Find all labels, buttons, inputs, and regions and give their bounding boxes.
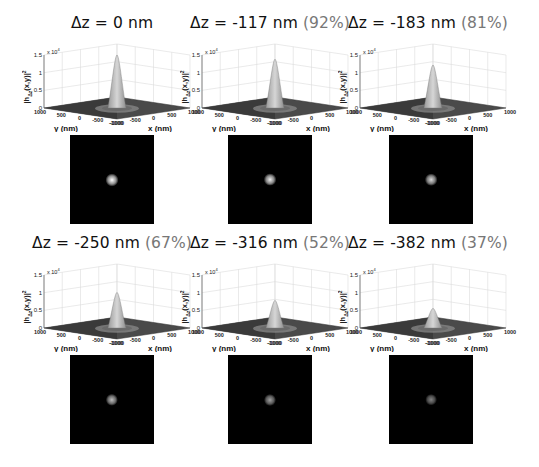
surface-plot-3d: 00.511.5x 104|hΔz(x,y)|210005000-500-100… — [180, 256, 360, 352]
surface-plot-3d: 00.511.5x 104|hΔz(x,y)|210005000-500-100… — [180, 36, 360, 132]
surface-plot-3d: 00.511.5x 104|hΔz(x,y)|210005000-500-100… — [338, 256, 518, 352]
z-tick-label: 1 — [39, 290, 43, 296]
x-tick-label: -500 — [130, 117, 141, 123]
defocus-label: Δz = -316 nm — [190, 234, 298, 252]
x-tick-label: 1000 — [504, 329, 516, 335]
z-multiplier: x 104 — [47, 267, 60, 275]
x-tick-label: -1000 — [426, 120, 440, 126]
panel-title: Δz = -117 nm (92%) — [180, 14, 360, 32]
y-axis-label: y (nm) — [212, 124, 236, 132]
x-tick-label: -1000 — [110, 340, 124, 346]
psf-peak — [424, 65, 442, 108]
z-tick-label: 0.5 — [192, 87, 201, 93]
panel-title: Δz = -316 nm (52%) — [180, 234, 360, 252]
z-axis-label: |hΔz(x,y)|2 — [180, 290, 191, 323]
x-tick-label: -500 — [288, 337, 299, 343]
y-tick-label: 0 — [394, 335, 397, 341]
x-tick-label: 500 — [325, 332, 334, 338]
x-tick-label: -500 — [130, 337, 141, 343]
x-axis-label: x (nm) — [306, 344, 330, 352]
z-tick-label: 1.5 — [192, 52, 201, 58]
x-tick-label: -1000 — [426, 340, 440, 346]
z-tick-label: 1.5 — [350, 272, 359, 278]
z-tick-label: 1.5 — [192, 272, 201, 278]
y-axis-label: y (nm) — [54, 124, 78, 132]
x-axis-label: x (nm) — [464, 344, 488, 352]
intensity-percent: (37%) — [456, 234, 508, 252]
z-multiplier: x 104 — [47, 47, 60, 55]
y-tick-label: 0 — [236, 115, 239, 121]
x-tick-label: 0 — [310, 115, 313, 121]
panel-title: Δz = -183 nm (81%) — [338, 14, 518, 32]
psf-intensity-image — [70, 135, 154, 224]
y-tick-label: 1000 — [34, 329, 46, 335]
panel-title: Δz = -250 nm (67%) — [22, 234, 202, 252]
x-tick-label: -500 — [288, 117, 299, 123]
z-tick-label: 1 — [197, 290, 201, 296]
x-tick-label: 0 — [152, 115, 155, 121]
z-multiplier: x 104 — [205, 47, 218, 55]
z-axis-label: |hΔz(x,y)|2 — [338, 70, 349, 103]
psf-spot — [264, 173, 277, 186]
psf-intensity-image — [228, 355, 312, 444]
surface-plot-3d: 00.511.5x 104|hΔz(x,y)|210005000-500-100… — [338, 36, 518, 132]
z-axis-label: |hΔz(x,y)|2 — [180, 70, 191, 103]
defocus-label: Δz = -382 nm — [348, 234, 456, 252]
x-axis-label: x (nm) — [148, 124, 172, 132]
y-tick-label: 500 — [373, 332, 382, 338]
y-tick-label: -500 — [92, 337, 103, 343]
z-tick-label: 1.5 — [34, 272, 43, 278]
y-tick-label: 0 — [78, 335, 81, 341]
z-tick-label: 0.5 — [34, 87, 43, 93]
z-multiplier: x 104 — [205, 267, 218, 275]
x-axis-label: x (nm) — [306, 124, 330, 132]
z-tick-label: 1 — [355, 290, 359, 296]
y-tick-label: 500 — [57, 112, 66, 118]
y-tick-label: 500 — [215, 332, 224, 338]
y-tick-label: 0 — [78, 115, 81, 121]
psf-peak — [266, 300, 284, 328]
y-tick-label: -500 — [408, 337, 419, 343]
defocus-label: Δz = 0 nm — [71, 14, 153, 32]
z-tick-label: 1.5 — [34, 52, 43, 58]
y-axis-label: y (nm) — [212, 344, 236, 352]
z-axis-label: |hΔz(x,y)|2 — [22, 290, 33, 323]
x-tick-label: 1000 — [504, 109, 516, 115]
y-axis-label: y (nm) — [370, 344, 394, 352]
x-tick-label: -1000 — [268, 120, 282, 126]
y-tick-label: 500 — [373, 112, 382, 118]
x-tick-label: -1000 — [268, 340, 282, 346]
x-tick-label: -1000 — [110, 120, 124, 126]
defocus-label: Δz = -183 nm — [348, 14, 456, 32]
surface-plot-3d: 00.511.5x 104|hΔz(x,y)|210005000-500-100… — [22, 36, 202, 132]
psf-spot — [106, 173, 119, 186]
z-tick-label: 1 — [355, 70, 359, 76]
z-axis-label: |hΔz(x,y)|2 — [338, 290, 349, 323]
psf-peak — [108, 292, 126, 328]
z-tick-label: 0.5 — [350, 307, 359, 313]
z-tick-label: 1.5 — [350, 52, 359, 58]
x-tick-label: -500 — [446, 337, 457, 343]
x-tick-label: 0 — [468, 115, 471, 121]
y-tick-label: -500 — [250, 117, 261, 123]
panel-title: Δz = -382 nm (37%) — [338, 234, 518, 252]
y-tick-label: 1000 — [350, 329, 362, 335]
x-tick-label: 500 — [483, 112, 492, 118]
x-axis-label: x (nm) — [464, 124, 488, 132]
y-tick-label: 500 — [57, 332, 66, 338]
x-tick-label: 0 — [152, 335, 155, 341]
y-tick-label: -500 — [250, 337, 261, 343]
psf-peak — [108, 55, 126, 108]
psf-intensity-image — [228, 135, 312, 224]
x-tick-label: 0 — [468, 335, 471, 341]
surface-plot-3d: 00.511.5x 104|hΔz(x,y)|210005000-500-100… — [22, 256, 202, 352]
z-axis-label: |hΔz(x,y)|2 — [22, 70, 33, 103]
psf-intensity-image — [389, 135, 473, 224]
z-tick-label: 0.5 — [350, 87, 359, 93]
psf-spot — [264, 393, 276, 405]
x-tick-label: 500 — [167, 332, 176, 338]
z-tick-label: 0.5 — [34, 307, 43, 313]
y-axis-label: y (nm) — [54, 344, 78, 352]
psf-spot — [106, 393, 118, 405]
y-tick-label: 1000 — [192, 109, 204, 115]
